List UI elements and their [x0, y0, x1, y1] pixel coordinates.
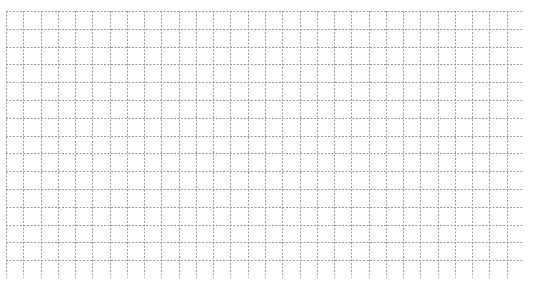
grid-lines: [6, 11, 524, 278]
dashed-grid: [6, 11, 524, 278]
